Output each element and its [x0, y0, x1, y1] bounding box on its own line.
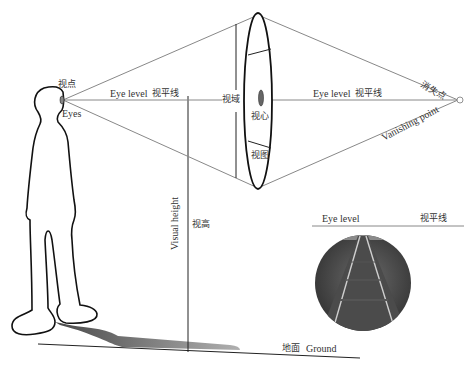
- eye-level-right-label: Eye level: [313, 89, 350, 99]
- viewpoint-label-cn: 视点: [58, 80, 76, 89]
- field-of-view-label-cn: 视域: [222, 95, 240, 104]
- human-figure: [12, 87, 97, 335]
- ground-label-cn: 地面: [282, 344, 300, 353]
- inset-eye-level-label-cn: 视平线: [420, 214, 447, 223]
- perspective-diagram: 视点 Eyes Eye level 视平线 视域 视心 视图 Eye level…: [0, 0, 476, 368]
- visual-center-marker: [259, 90, 264, 106]
- vanishing-point-marker: [457, 97, 463, 103]
- eye-level-right-label-cn: 视平线: [355, 89, 382, 98]
- eye-level-label: Eye level: [110, 89, 147, 99]
- visual-center-label-cn: 视心: [251, 112, 269, 121]
- visual-height-label: Visual height: [170, 197, 180, 250]
- picture-plane-ellipse: [244, 13, 272, 189]
- visual-height-label-cn: 视高: [192, 220, 210, 229]
- eyes-label: Eyes: [62, 109, 81, 119]
- railway-photo: [310, 228, 420, 340]
- inset-eye-level-label: Eye level: [322, 214, 359, 224]
- picture-plane-label-cn: 视图: [251, 151, 269, 160]
- eye-marker: [60, 96, 64, 104]
- eye-level-label-cn: 视平线: [152, 89, 179, 98]
- ground-label: Ground: [306, 344, 337, 354]
- diagram-canvas: [0, 0, 476, 368]
- ray-bottom: [63, 100, 258, 188]
